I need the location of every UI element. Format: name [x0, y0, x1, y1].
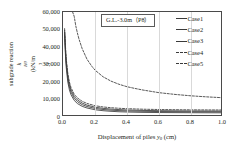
y-tick-label: 30,000 — [26, 60, 60, 67]
gridline-vertical — [127, 12, 128, 115]
chart-figure: Coefficient of static-horizontal subgrad… — [0, 0, 232, 158]
y-tick-label: 10,000 — [26, 95, 60, 102]
x-tick-label: 0.2 — [81, 118, 107, 126]
legend-item: Case4 — [176, 47, 232, 58]
x-tick-label: 0.8 — [177, 118, 203, 126]
legend-line-swatch — [176, 27, 187, 33]
y-tick-label: 40,000 — [26, 43, 60, 50]
x-tick-label: 0.4 — [113, 118, 139, 126]
legend-line-swatch — [176, 38, 187, 44]
legend-item-label: Case4 — [187, 49, 203, 56]
x-tick-label: 0.6 — [145, 118, 171, 126]
y-axis-symbol: k — [15, 26, 22, 102]
legend-item: Case2 — [176, 24, 232, 35]
legend-item-label: Case3 — [187, 37, 203, 44]
x-tick-label: 1.0 — [209, 118, 232, 126]
legend: Case1Case2Case3Case4Case5 — [176, 13, 232, 69]
legend-item: Case3 — [176, 35, 232, 46]
x-axis-label-post: (cm) — [162, 133, 176, 140]
y-tick-label: 60,000 — [26, 8, 60, 15]
gridline-vertical — [95, 12, 96, 115]
y-tick-label: 50,000 — [26, 25, 60, 32]
y-tick-label: 20,000 — [26, 78, 60, 85]
legend-item: Case5 — [176, 58, 232, 69]
y-axis-ticks: 010,00020,00030,00040,00050,00060,000 — [24, 11, 60, 116]
legend-line-swatch — [176, 16, 187, 22]
x-axis-ticks: 0.00.20.40.60.81.0 — [62, 118, 222, 128]
x-axis-label-pre: Displacement of piles — [98, 133, 157, 140]
x-axis-label: Displacement of piles y0 (cm) — [42, 132, 232, 143]
y-axis-label-line2-pre: subgrade reaction — [7, 26, 14, 102]
legend-line-swatch — [176, 60, 187, 66]
legend-line-swatch — [176, 49, 187, 55]
legend-item: Case1 — [176, 13, 232, 24]
gridline-vertical — [159, 12, 160, 115]
x-tick-label: 0.0 — [49, 118, 75, 126]
legend-item-label: Case1 — [187, 15, 203, 22]
legend-item-label: Case5 — [187, 60, 203, 67]
legend-item-label: Case2 — [187, 26, 203, 33]
annotation-label: G.L.-3.0m（P8） — [101, 14, 155, 27]
